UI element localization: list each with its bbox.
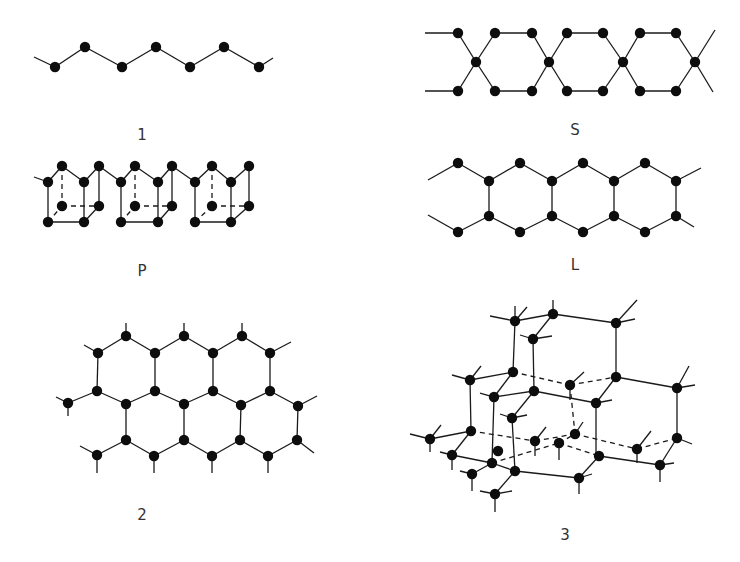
atom [672, 383, 682, 393]
atom [598, 86, 608, 96]
atom [598, 28, 608, 38]
atom [529, 386, 539, 396]
atom [207, 451, 217, 461]
atom [447, 450, 457, 460]
atom [490, 489, 500, 499]
bond [470, 380, 471, 431]
atom [632, 444, 642, 454]
atom [150, 348, 160, 358]
atom [190, 217, 200, 227]
atom [547, 211, 557, 221]
atom [690, 57, 700, 67]
atom [167, 161, 177, 171]
atom [489, 392, 499, 402]
hidden-bond [513, 372, 570, 385]
atom [57, 201, 67, 211]
bond [695, 30, 715, 62]
atom [672, 433, 682, 443]
bond [676, 33, 695, 62]
atom [179, 399, 189, 409]
atom [640, 227, 650, 237]
bond [645, 163, 676, 181]
atom [527, 28, 537, 38]
atom [151, 42, 161, 52]
bond [520, 163, 552, 181]
atom [254, 62, 264, 72]
atom [150, 386, 160, 396]
atom [226, 177, 236, 187]
atom [611, 372, 621, 382]
atom [293, 401, 303, 411]
bond [552, 216, 583, 232]
atom [130, 201, 140, 211]
atom [121, 435, 131, 445]
atom [92, 386, 102, 396]
atom [236, 400, 246, 410]
atom [547, 176, 557, 186]
atom [640, 158, 650, 168]
atom [594, 451, 604, 461]
atom [94, 201, 104, 211]
bond [603, 33, 623, 62]
atom [548, 309, 558, 319]
bond [458, 163, 489, 181]
atom [265, 348, 275, 358]
atom [611, 318, 621, 328]
atom [244, 201, 254, 211]
atom [453, 28, 463, 38]
atom [425, 434, 435, 444]
atom [466, 426, 476, 436]
atom [244, 161, 254, 171]
atom [515, 158, 525, 168]
atom [465, 375, 475, 385]
atom [43, 217, 53, 227]
atom [562, 28, 572, 38]
atom [467, 469, 477, 479]
atom [655, 460, 665, 470]
bond [470, 372, 513, 380]
atom [591, 398, 601, 408]
hidden-bond [471, 431, 535, 441]
atom [508, 367, 518, 377]
atom [484, 211, 494, 221]
bond [85, 47, 122, 67]
atom [671, 211, 681, 221]
atom [609, 211, 619, 221]
atom [179, 435, 189, 445]
atom [235, 435, 245, 445]
atom [50, 62, 60, 72]
label-lattice-3d: 3 [560, 526, 570, 544]
bond [489, 216, 520, 232]
hidden-bond [575, 434, 637, 449]
label-layer-2d: 2 [137, 506, 147, 524]
bond [97, 353, 98, 391]
atom [609, 176, 619, 186]
atom [226, 217, 236, 227]
atom [43, 177, 53, 187]
bond [553, 314, 616, 323]
atom [121, 399, 131, 409]
bond [552, 163, 583, 181]
atom [544, 57, 554, 67]
atom [554, 438, 564, 448]
bond [476, 33, 495, 62]
bond [512, 391, 534, 418]
bond [534, 391, 596, 403]
bond [512, 418, 515, 471]
atom [510, 466, 520, 476]
atom [153, 217, 163, 227]
atom [453, 86, 463, 96]
atom [149, 451, 159, 461]
atom [92, 450, 102, 460]
bond [452, 455, 492, 463]
atom [219, 42, 229, 52]
allotrope-structures-figure [0, 0, 740, 562]
atom [574, 473, 584, 483]
atom [153, 177, 163, 187]
atom [565, 380, 575, 390]
atom [121, 331, 131, 341]
bond [614, 163, 645, 181]
atom [207, 161, 217, 171]
label-p-chain: P [137, 262, 146, 280]
bond [513, 321, 515, 372]
